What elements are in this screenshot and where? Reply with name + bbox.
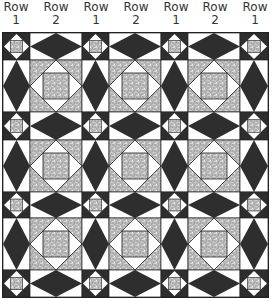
speckled-center-square: [201, 73, 227, 99]
speckled-square: [248, 120, 261, 133]
speckled-center-square: [201, 231, 227, 257]
quilt-diagram: [3, 33, 268, 297]
speckled-center-square: [201, 153, 227, 179]
speckled-square: [168, 40, 180, 52]
speckled-center-square: [43, 73, 69, 99]
speckled-center-square: [122, 231, 148, 257]
speckled-square: [10, 199, 22, 211]
column-label: Row1: [4, 1, 29, 27]
speckled-square: [89, 277, 101, 289]
speckled-square: [168, 199, 180, 211]
speckled-square: [248, 199, 261, 211]
column-label: Row1: [243, 1, 268, 27]
speckled-square: [168, 120, 180, 133]
speckled-square: [89, 199, 101, 211]
speckled-center-square: [122, 73, 148, 99]
column-label: Row2: [124, 1, 149, 27]
speckled-square: [168, 277, 180, 289]
speckled-square: [89, 120, 101, 133]
quilt-layout: [3, 33, 268, 297]
column-label: Row2: [44, 1, 69, 27]
column-label: Row1: [164, 1, 189, 27]
column-label: Row2: [203, 1, 228, 27]
column-label: Row1: [84, 1, 109, 27]
speckled-square: [10, 120, 22, 133]
speckled-square: [248, 277, 261, 289]
column-labels: Row1 Row2 Row1 Row2 Row1 Row2 Row1: [0, 0, 272, 33]
speckled-center-square: [43, 153, 69, 179]
speckled-center-square: [122, 153, 148, 179]
speckled-square: [248, 40, 261, 52]
speckled-square: [89, 40, 101, 52]
speckled-square: [10, 277, 22, 289]
speckled-square: [10, 40, 22, 52]
speckled-center-square: [43, 231, 69, 257]
